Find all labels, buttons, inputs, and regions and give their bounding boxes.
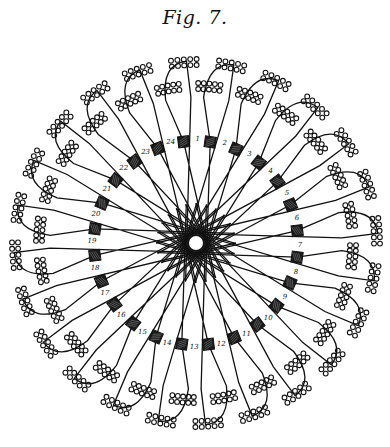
- conductor-circle: [160, 84, 165, 89]
- slot-label: 23: [140, 148, 150, 156]
- conductor-circle: [241, 419, 246, 424]
- conductor-circle: [138, 97, 143, 102]
- coil-group: [282, 351, 311, 405]
- slot-label: 13: [190, 343, 199, 351]
- conductor-circle: [121, 98, 126, 103]
- conductor-circle: [34, 162, 39, 167]
- conductor-circle: [34, 233, 39, 238]
- conductor-circle: [145, 393, 150, 398]
- conductor-circle: [40, 197, 45, 202]
- conductor-circle: [61, 162, 66, 167]
- conductor-circle: [128, 69, 133, 74]
- conductor-circle: [377, 222, 382, 227]
- conductor-circle: [169, 399, 174, 404]
- conductor-circle: [257, 407, 262, 412]
- conductor-circle: [186, 400, 191, 405]
- conductor-circle: [23, 171, 28, 176]
- conductor-circle: [54, 306, 59, 311]
- coil-group: [81, 81, 110, 135]
- conductor-circle: [100, 89, 105, 94]
- conductor-circle: [269, 375, 274, 380]
- conductor-circle: [139, 391, 144, 396]
- conductor-circle: [112, 378, 117, 383]
- conductor-circle: [45, 181, 50, 186]
- conductor-circle: [339, 293, 344, 298]
- conductor-circle: [322, 336, 327, 341]
- slot-label: 7: [298, 241, 303, 249]
- conductor-circle: [205, 418, 210, 423]
- conductor-circle: [346, 264, 351, 269]
- slot-marker: [176, 338, 188, 350]
- conductor-circle: [41, 263, 46, 268]
- conductor-circle: [333, 175, 338, 180]
- conductor-circle: [285, 109, 290, 114]
- conductor-circle: [353, 254, 358, 259]
- conductor-circle: [147, 63, 152, 68]
- conductor-circle: [366, 195, 371, 200]
- conductor-circle: [27, 304, 32, 309]
- conductor-circle: [343, 203, 348, 208]
- conductor-circle: [262, 385, 267, 390]
- conductor-circle: [213, 82, 218, 87]
- conductor-circle: [254, 382, 259, 387]
- conductor-circle: [86, 122, 91, 127]
- conductor-circle: [345, 213, 350, 218]
- coil-group: [346, 243, 381, 294]
- conductor-circle: [22, 306, 27, 311]
- conductor-circle: [18, 294, 23, 299]
- conductor-circle: [372, 235, 377, 240]
- conductor-circle: [340, 305, 345, 310]
- conductor-circle: [75, 348, 80, 353]
- conductor-circle: [285, 365, 290, 370]
- conductor-circle: [36, 216, 41, 221]
- conductor-circle: [247, 417, 252, 422]
- conductor-circle: [296, 394, 301, 399]
- conductor-circle: [69, 332, 74, 337]
- conductor-circle: [315, 111, 320, 116]
- conductor-circle: [328, 166, 333, 171]
- conductor-circle: [142, 70, 147, 75]
- conductor-circle: [233, 396, 238, 401]
- conductor-circle: [171, 82, 176, 87]
- conductor-circle: [353, 319, 358, 324]
- coil-group: [11, 192, 46, 243]
- conductor-circle: [36, 269, 41, 274]
- conductor-circle: [323, 362, 328, 367]
- conductor-circle: [16, 192, 21, 197]
- conductor-circle: [130, 74, 135, 79]
- conductor-circle: [136, 91, 141, 96]
- slot-marker: [229, 142, 243, 156]
- conductor-circle: [35, 148, 40, 153]
- conductor-circle: [350, 144, 355, 149]
- conductor-circle: [124, 411, 129, 416]
- slot-label: 10: [264, 314, 273, 322]
- conductor-circle: [234, 67, 239, 72]
- coil-group: [343, 201, 383, 246]
- conductor-circle: [50, 296, 55, 301]
- slot-marker: [291, 251, 303, 263]
- conductor-circle: [259, 380, 264, 385]
- conductor-circle: [323, 371, 328, 376]
- conductor-circle: [41, 192, 46, 197]
- conductor-circle: [304, 133, 309, 138]
- conductor-circle: [310, 98, 315, 103]
- conductor-circle: [353, 149, 358, 154]
- conductor-circle: [153, 414, 158, 419]
- conductor-circle: [371, 229, 376, 234]
- conductor-circle: [194, 63, 199, 68]
- center-hub: [188, 235, 204, 251]
- conductor-circle: [98, 120, 103, 125]
- conductor-circle: [156, 91, 161, 96]
- conductor-circle: [11, 266, 16, 271]
- conductor-circle: [177, 88, 182, 93]
- conductor-circle: [325, 332, 330, 337]
- conductor-circle: [42, 334, 47, 339]
- slot-marker: [251, 155, 266, 170]
- conductor-circle: [346, 219, 351, 224]
- conductor-circle: [216, 399, 221, 404]
- slot-marker: [177, 136, 189, 148]
- conductor-circle: [335, 180, 340, 185]
- conductor-circle: [372, 194, 377, 199]
- conductor-circle: [98, 369, 103, 374]
- conductor-circle: [41, 217, 46, 222]
